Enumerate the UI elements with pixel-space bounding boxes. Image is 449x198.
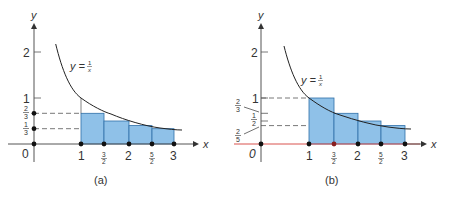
rect-a-3 [129, 126, 152, 144]
svg-text:5: 5 [150, 151, 154, 158]
panel-a-rectangles [81, 113, 174, 144]
panel-b-xtick-label-5-2: 5 2 [378, 151, 384, 165]
panel-b-pointer-2-5 [244, 127, 259, 134]
panel-a-xtick-label-5-2: 5 2 [149, 151, 155, 165]
panel-b-xtick-label-1: 1 [306, 149, 313, 163]
rect-b-3 [358, 121, 381, 144]
panel-b-label-1-2: 1 2 [251, 112, 257, 127]
panel-a-xtick-label-3-2: 3 2 [101, 151, 107, 165]
panel-b: y x 2 1 0 2 3 1 2 2 5 1 3 2 2 [234, 9, 437, 186]
panel-b-origin-label: 0 [249, 147, 256, 161]
svg-text:3: 3 [24, 129, 28, 136]
panel-a-origin-label: 0 [22, 147, 29, 161]
svg-text:y =: y = [69, 60, 86, 72]
svg-text:3: 3 [102, 151, 106, 158]
panel-b-ytick-label-1: 1 [252, 92, 259, 106]
svg-text:2: 2 [379, 158, 383, 165]
svg-text:5: 5 [379, 151, 383, 158]
svg-text:3: 3 [24, 113, 28, 120]
panel-a-label-1-3: 1 3 [23, 121, 29, 136]
rect-a-4 [152, 129, 174, 144]
panel-a-y-label: y [30, 9, 38, 21]
panel-b-label-2-3: 2 3 [235, 98, 241, 113]
panel-b-curve-label: y = 1 x [300, 74, 323, 87]
panel-b-x-label: x [430, 138, 437, 150]
svg-text:1: 1 [24, 121, 28, 128]
svg-text:2: 2 [332, 158, 336, 165]
panel-a-ytick-label-1: 1 [23, 92, 30, 106]
svg-text:2: 2 [150, 158, 154, 165]
rect-b-1 [309, 98, 334, 144]
panel-b-ytick-label-2: 2 [251, 46, 258, 60]
panel-a-label-2-3: 2 3 [23, 105, 29, 120]
panel-a-xtick-label-2: 2 [125, 149, 132, 163]
svg-text:2: 2 [236, 128, 240, 135]
panel-b-caption: (b) [325, 174, 338, 186]
panel-b-xtick-label-3-2: 3 2 [331, 151, 337, 165]
svg-text:2: 2 [102, 158, 106, 165]
panel-a: y x 2 1 0 2 3 1 3 1 3 2 2 5 2 3 [8, 9, 209, 186]
rect-b-2 [334, 113, 358, 144]
panel-a-x-label: x [202, 138, 209, 150]
panel-b-xtick-label-3: 3 [401, 149, 408, 163]
svg-text:2: 2 [236, 98, 240, 105]
svg-text:5: 5 [236, 136, 240, 143]
svg-text:3: 3 [332, 151, 336, 158]
svg-text:x: x [87, 67, 92, 73]
panel-a-xtick-label-1: 1 [78, 149, 85, 163]
svg-text:x: x [318, 81, 323, 87]
panel-b-rectangles [309, 98, 405, 144]
svg-text:y =: y = [300, 74, 317, 86]
panel-b-xtick-label-2: 2 [354, 149, 361, 163]
svg-text:1: 1 [252, 112, 256, 119]
svg-text:2: 2 [24, 105, 28, 112]
svg-text:1: 1 [88, 60, 92, 66]
svg-text:2: 2 [252, 120, 256, 127]
rect-a-2 [104, 121, 129, 144]
panel-a-xtick-label-3: 3 [170, 149, 177, 163]
panel-b-label-2-5: 2 5 [235, 128, 241, 143]
svg-text:1: 1 [319, 74, 323, 80]
panel-a-ytick-label-2: 2 [23, 46, 30, 60]
panel-a-curve-label: y = 1 x [69, 60, 92, 73]
rect-a-1 [81, 113, 104, 144]
panel-a-curve [56, 44, 182, 130]
riemann-sum-figure: y x 2 1 0 2 3 1 3 1 3 2 2 5 2 3 [0, 0, 449, 198]
panel-b-y-label: y [257, 9, 265, 21]
panel-a-caption: (a) [94, 174, 107, 186]
svg-text:3: 3 [236, 106, 240, 113]
